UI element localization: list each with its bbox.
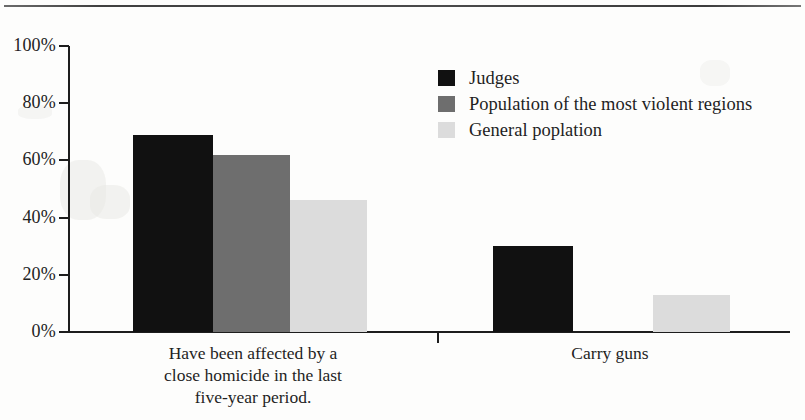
y-axis-tick-label-text: 0%: [0, 322, 56, 340]
y-axis-tick-label-text: 20%: [0, 265, 56, 283]
legend-swatch-icon: [438, 122, 455, 138]
y-axis-tick-label: 20%: [0, 265, 56, 283]
legend-swatch-icon: [438, 96, 455, 112]
bar-g0-s0: [133, 135, 213, 332]
legend-swatch-icon: [438, 70, 455, 86]
y-axis-tick-40: [59, 217, 69, 219]
bar-g1-s0: [493, 246, 573, 332]
y-axis-tick-label: 100%: [0, 36, 56, 54]
legend-item-label: General poplation: [469, 120, 602, 140]
legend-item-1: Population of the most violent regions: [438, 92, 752, 116]
y-axis-tick-label-text: 80%: [0, 93, 56, 111]
y-axis-tick-label-text: 100%: [0, 36, 56, 54]
y-axis-line: [68, 46, 70, 333]
chart-legend: JudgesPopulation of the most violent reg…: [438, 66, 752, 144]
y-axis-tick-label: 80%: [0, 93, 56, 111]
bar-g0-s2: [290, 200, 367, 332]
legend-item-2: General poplation: [438, 118, 752, 142]
bar-g1-s2: [653, 295, 730, 332]
x-axis-category-label-1: Carry guns: [480, 342, 740, 364]
legend-item-label: Population of the most violent regions: [469, 94, 752, 114]
category-label-line: Have been affected by a: [108, 342, 398, 364]
category-label-line: five-year period.: [108, 386, 398, 408]
y-axis-tick-label: 60%: [0, 150, 56, 168]
y-axis-tick-label-text: 60%: [0, 150, 56, 168]
y-axis-tick-20: [59, 274, 69, 276]
y-axis-tick-100: [59, 45, 69, 47]
y-axis-tick-80: [59, 102, 69, 104]
bar-g0-s1: [213, 155, 290, 332]
y-axis-tick-60: [59, 159, 69, 161]
legend-item-0: Judges: [438, 66, 752, 90]
plot-area: 0%20%40%60%80%100% Have been affected by…: [0, 0, 805, 420]
legend-item-label: Judges: [469, 68, 519, 88]
category-label-line: close homicide in the last: [108, 364, 398, 386]
y-axis-tick-label-text: 40%: [0, 208, 56, 226]
x-axis-group-separator-0: [437, 332, 439, 343]
category-label-line: Carry guns: [480, 342, 740, 364]
x-axis-category-label-0: Have been affected by a close homicide i…: [108, 342, 398, 408]
y-axis-tick-label: 0%: [0, 322, 56, 340]
bar-chart-figure: 0%20%40%60%80%100% Have been affected by…: [0, 0, 805, 420]
y-axis-tick-label: 40%: [0, 208, 56, 226]
y-axis-tick-0: [59, 331, 69, 333]
